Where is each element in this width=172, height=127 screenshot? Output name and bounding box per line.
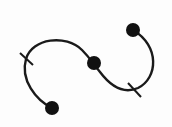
end-node-handle[interactable] [126,23,140,37]
start-node-handle[interactable] [45,101,59,115]
curve-path [25,30,153,108]
middle-node-handle[interactable] [87,56,101,70]
bezier-curve-icon [0,0,172,127]
icon-canvas [0,0,172,127]
